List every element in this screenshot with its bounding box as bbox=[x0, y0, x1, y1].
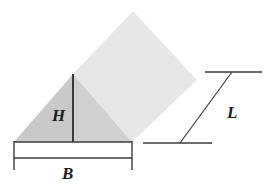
geometry-diagram bbox=[0, 0, 273, 192]
length-label: L bbox=[227, 104, 237, 121]
base-label: B bbox=[62, 165, 73, 182]
figure-canvas: H B L bbox=[0, 0, 273, 192]
height-label: H bbox=[52, 107, 65, 124]
